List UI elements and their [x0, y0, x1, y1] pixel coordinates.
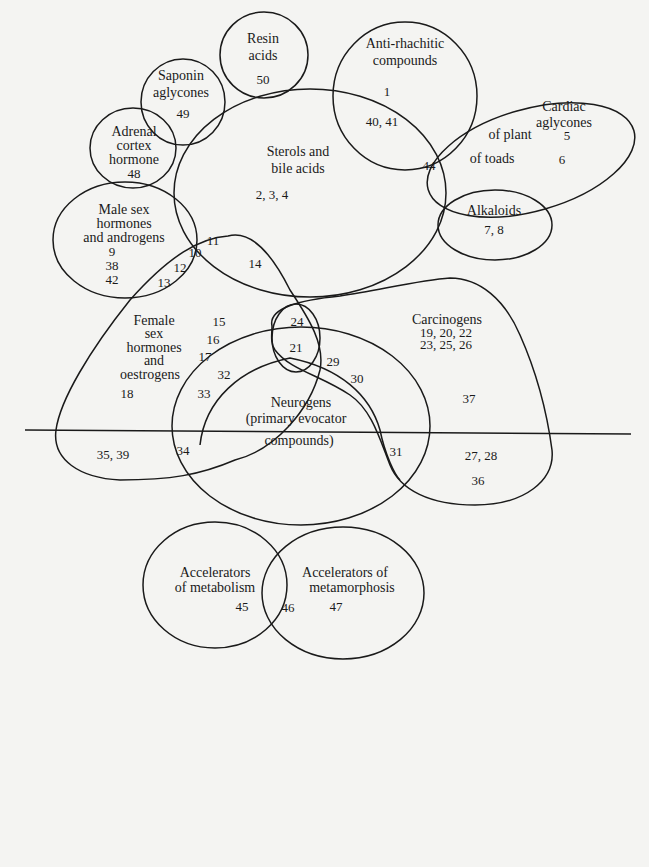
- neurogens-title-3: compounds): [264, 433, 334, 449]
- overlap-14: 14: [249, 256, 263, 271]
- female-member-18: 18: [121, 386, 134, 401]
- male-member-9: 9: [109, 244, 116, 259]
- set-sterols-bile-acids: [174, 89, 446, 297]
- male-member-42: 42: [106, 272, 119, 287]
- female-title-5: oestrogens: [120, 367, 180, 382]
- overlap-30: 30: [351, 371, 364, 386]
- female-member-15: 15: [213, 314, 226, 329]
- overlap-21: 21: [290, 340, 303, 355]
- resin-members: 50: [257, 72, 270, 87]
- overlap-33: 33: [198, 386, 211, 401]
- carcinogens-outer-37: 37: [463, 391, 477, 406]
- metamorphosis-title-2: metamorphosis: [309, 580, 395, 595]
- female-title-4: and: [144, 353, 164, 368]
- overlap-12: 12: [174, 260, 187, 275]
- antirhachitic-members: 1: [384, 84, 391, 99]
- sterols-title-2: bile acids: [271, 161, 324, 176]
- carcinogens-members-2: 23, 25, 26: [420, 337, 473, 352]
- neurogens-title-1: Neurogens: [271, 395, 332, 410]
- metamorphosis-members: 47: [330, 599, 344, 614]
- resin-title-2: acids: [249, 48, 278, 63]
- overlap-29: 29: [327, 354, 340, 369]
- metabolism-title-1: Accelerators: [180, 565, 251, 580]
- sterols-members: 2, 3, 4: [256, 187, 289, 202]
- adrenal-title-2: cortex: [117, 138, 152, 153]
- overlap-46: 46: [282, 600, 296, 615]
- saponin-title-1: Saponin: [158, 68, 204, 83]
- overlap-cardiac-sterols: 44: [423, 158, 437, 173]
- cardiac-toads-label: of toads: [470, 151, 515, 166]
- saponin-title-2: aglycones: [153, 85, 209, 100]
- overlap-34: 34: [177, 443, 191, 458]
- resin-title-1: Resin: [247, 31, 279, 46]
- saponin-members: 49: [177, 106, 190, 121]
- adrenal-title-1: Adrenal: [111, 124, 156, 139]
- metabolism-members: 45: [236, 599, 249, 614]
- metamorphosis-title-1: Accelerators of: [302, 565, 388, 580]
- overlap-31: 31: [390, 444, 403, 459]
- metabolism-title-2: of metabolism: [175, 580, 256, 595]
- set-cardiac-aglycones: [414, 81, 648, 238]
- female-title-2: sex: [145, 326, 164, 341]
- cardiac-plant-label: of plant: [488, 127, 531, 142]
- male-member-38: 38: [106, 258, 119, 273]
- overlap-13: 13: [158, 275, 171, 290]
- compound-classification-diagram: Resin acids 50 Saponin aglycones 49 Adre…: [0, 0, 649, 867]
- carcinogens-outer-36: 36: [472, 473, 486, 488]
- antirhachitic-title-2: compounds: [373, 53, 438, 68]
- alkaloids-members: 7, 8: [484, 222, 504, 237]
- cardiac-toads-members: 6: [559, 152, 566, 167]
- overlap-antirhachitic-sterols: 40, 41: [366, 114, 399, 129]
- neurogens-title-2: (primary evocator: [246, 411, 347, 427]
- carcinogens-outer-27-28: 27, 28: [465, 448, 498, 463]
- overlap-32: 32: [218, 367, 231, 382]
- sterols-title-1: Sterols and: [267, 144, 330, 159]
- alkaloids-title: Alkaloids: [467, 203, 521, 218]
- male-title-2: hormones: [96, 216, 151, 231]
- female-member-16: 16: [207, 332, 221, 347]
- overlap-10: 10: [189, 245, 202, 260]
- overlap-24: 24: [291, 314, 305, 329]
- male-title-1: Male sex: [99, 202, 150, 217]
- overlap-11: 11: [207, 233, 220, 248]
- adrenal-title-3: hormone: [109, 152, 159, 167]
- antirhachitic-title-1: Anti-rhachitic: [366, 36, 445, 51]
- adrenal-members: 48: [128, 166, 141, 181]
- cardiac-plant-members: 5: [564, 128, 571, 143]
- female-lower-members: 35, 39: [97, 447, 130, 462]
- male-title-3: and androgens: [83, 230, 164, 245]
- cardiac-title-1: Cardiac: [542, 99, 586, 114]
